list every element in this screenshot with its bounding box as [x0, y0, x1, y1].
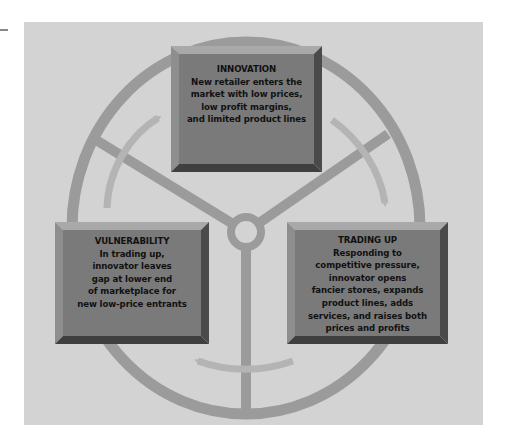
stage-text-line: low profit margins,: [201, 101, 292, 114]
stage-text-line: new low-price entrants: [77, 298, 187, 311]
stage-text-line: prices and profits: [326, 322, 410, 335]
stage-text-line: competitive pressure,: [315, 259, 419, 272]
stage-text-line: and limited product lines: [187, 113, 306, 126]
stage-text-line: product lines, adds: [322, 297, 413, 310]
stage-text-line: gap at lower end: [92, 273, 172, 286]
stage-text-line: services, and raises both: [308, 310, 427, 323]
stage-title: VULNERABILITY: [95, 235, 170, 248]
stage-text-line: innovator opens: [329, 272, 406, 285]
stage-text-line: fancier stores, expands: [312, 284, 424, 297]
stage-text-line: In trading up,: [100, 248, 165, 261]
wheel-hub-icon: [231, 217, 261, 247]
stage-title: INNOVATION: [217, 63, 276, 76]
stage-text-line: New retailer enters the: [191, 76, 302, 89]
stage-text-line: Responding to: [333, 247, 402, 260]
stage-box-vulnerability: VULNERABILITY In trading up, innovator l…: [55, 222, 209, 344]
stage-title: TRADING UP: [338, 234, 397, 247]
stage-text-line: market with low prices,: [191, 88, 303, 101]
stage-text-line: of marketplace for: [88, 285, 176, 298]
stage-box-trading-up: TRADING UP Responding to competitive pre…: [287, 222, 448, 344]
stage-box-innovation: INNOVATION New retailer enters the marke…: [171, 46, 322, 172]
stage-text-line: innovator leaves: [92, 260, 171, 273]
